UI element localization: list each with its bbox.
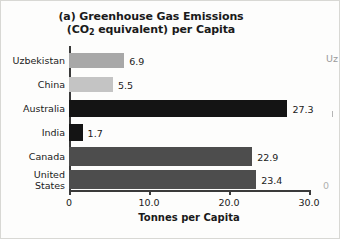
adjacent-panel-clipped: Uz 0: [321, 1, 340, 239]
x-axis-tick-mark: [69, 190, 71, 195]
adjacent-panel-zero-label: 0: [323, 180, 329, 191]
bar-uzbekistan[interactable]: [69, 53, 124, 68]
bar-row: 5.5: [69, 77, 309, 92]
chart-title: (a) Greenhouse Gas Emissions (CO2 equiva…: [1, 10, 301, 37]
bar-value-label: 6.9: [124, 55, 144, 66]
plot-area: 6.95.527.31.722.923.4: [69, 46, 309, 190]
bar-value-label: 22.9: [252, 151, 278, 162]
chart-title-line-1: (a) Greenhouse Gas Emissions: [58, 10, 243, 23]
bar-india[interactable]: [69, 124, 83, 141]
bar-value-label: 27.3: [287, 103, 313, 114]
bar-row: 22.9: [69, 147, 309, 166]
bar-row: 27.3: [69, 100, 309, 117]
category-label: United States: [34, 169, 65, 191]
adjacent-panel-category-label: Uz: [326, 53, 338, 64]
bar-value-label: 1.7: [83, 127, 103, 138]
bar-canada[interactable]: [69, 147, 252, 166]
x-axis-tick-label: 10.0: [138, 197, 159, 208]
chart-title-line-2: (CO2 equivalent) per Capita: [1, 23, 301, 37]
x-axis-tick-mark: [309, 190, 311, 195]
x-axis-tick-mark: [229, 190, 231, 195]
x-axis-tick-mark: [149, 190, 151, 195]
chart-title-co2-suffix: equivalent) per Capita: [94, 23, 235, 36]
adjacent-panel-tick: [332, 111, 333, 117]
x-axis-line: [69, 190, 309, 192]
bar-value-label: 23.4: [256, 174, 282, 185]
category-label: India: [42, 127, 65, 138]
category-label: Uzbekistan: [13, 55, 65, 66]
bar-row: 1.7: [69, 124, 309, 141]
x-axis-tick-label: 20.0: [218, 197, 239, 208]
x-axis-title: Tonnes per Capita: [69, 212, 309, 223]
bar-value-label: 5.5: [113, 79, 133, 90]
bar-united-states[interactable]: [69, 170, 256, 189]
category-label: China: [38, 79, 65, 90]
category-label: Canada: [29, 151, 65, 162]
x-axis-tick-label: 30.0: [298, 197, 319, 208]
chart-title-subscript: 2: [89, 28, 94, 37]
category-label: Australia: [23, 103, 65, 114]
chart-figure: (a) Greenhouse Gas Emissions (CO2 equiva…: [0, 0, 340, 239]
bar-australia[interactable]: [69, 100, 287, 117]
bar-row: 23.4: [69, 170, 309, 189]
x-axis-tick-label: 0: [66, 197, 72, 208]
bar-china[interactable]: [69, 77, 113, 92]
chart-title-co2-prefix: (CO: [67, 23, 89, 36]
bar-row: 6.9: [69, 53, 309, 68]
